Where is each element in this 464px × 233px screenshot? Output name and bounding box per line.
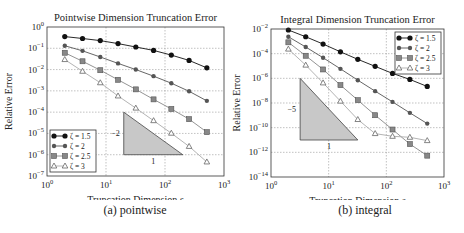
y-tick-label: 10−6 <box>28 148 45 160</box>
y-tick-label: 10−6 <box>252 71 269 83</box>
circle-marker <box>62 133 67 138</box>
circle-marker <box>390 71 395 76</box>
circle-marker <box>52 144 56 148</box>
circle-marker <box>51 133 56 138</box>
triangle-marker <box>169 130 175 135</box>
circle-marker <box>169 52 174 57</box>
square-marker <box>187 117 192 122</box>
circle-marker <box>204 65 209 70</box>
y-axis-label: Relative Error <box>232 74 242 132</box>
circle-marker <box>356 78 360 82</box>
x-tick-label: 101 <box>100 178 112 190</box>
chart-pointwise: Pointwise Dimension Truncation Error−211… <box>0 0 232 200</box>
circle-marker <box>407 77 412 82</box>
y-tick-label: 10−12 <box>249 145 268 157</box>
legend-label: ζ = 2.5 <box>415 54 436 63</box>
triangle-marker <box>97 80 103 85</box>
circle-marker <box>407 35 412 40</box>
y-tick-label: 100 <box>32 20 44 32</box>
square-marker <box>338 83 343 88</box>
circle-marker <box>425 121 429 125</box>
circle-marker <box>63 44 67 48</box>
circle-marker <box>187 89 191 93</box>
circle-marker <box>205 99 209 103</box>
circle-marker <box>408 46 412 50</box>
legend-label: ζ = 1.5 <box>415 34 436 43</box>
circle-marker <box>408 111 412 115</box>
circle-marker <box>115 41 120 46</box>
caption-integral: (b) integral <box>310 203 420 218</box>
circle-marker <box>390 100 394 104</box>
square-marker <box>321 67 326 72</box>
legend-label: ζ = 2 <box>70 142 85 151</box>
y-tick-label: 10−10 <box>249 121 268 133</box>
square-marker <box>425 153 430 158</box>
circle-marker <box>338 49 343 54</box>
square-marker <box>151 97 156 102</box>
circle-marker <box>134 67 138 71</box>
square-marker <box>407 142 412 147</box>
circle-marker <box>286 35 290 39</box>
circle-marker <box>151 48 156 53</box>
square-marker <box>98 68 103 73</box>
run-label: 1 <box>151 157 155 166</box>
legend: ζ = 1.5ζ = 2ζ = 2.5ζ = 3 <box>395 32 441 74</box>
legend-label: ζ = 1.5 <box>70 132 91 141</box>
triangle-marker <box>133 105 139 110</box>
square-marker <box>390 127 395 132</box>
legend: ζ = 1.5ζ = 2ζ = 2.5ζ = 3 <box>50 130 96 172</box>
slope-triangle <box>300 78 358 140</box>
square-marker <box>373 113 378 118</box>
y-tick-label: 10−2 <box>28 63 44 75</box>
chart-integral: Integral Dimension Truncation Error−5110… <box>232 0 464 200</box>
x-tick-label: 100 <box>265 179 277 191</box>
circle-marker <box>304 45 308 49</box>
x-axis-label: Truncation Dimension s <box>87 194 183 200</box>
y-tick-label: 10−2 <box>252 22 268 34</box>
slope-label: −2 <box>111 129 120 138</box>
square-marker <box>355 98 360 103</box>
triangle-marker <box>151 118 157 123</box>
circle-marker <box>186 58 191 63</box>
y-tick-label: 10−1 <box>28 41 44 53</box>
square-marker <box>52 154 57 159</box>
circle-marker <box>80 49 84 53</box>
square-marker <box>116 77 121 82</box>
circle-marker <box>169 81 173 85</box>
y-tick-label: 10−4 <box>28 105 45 117</box>
circle-marker <box>396 35 401 40</box>
triangle-marker <box>372 131 378 136</box>
square-marker <box>397 56 402 61</box>
series-line <box>65 53 207 132</box>
circle-marker <box>62 34 67 39</box>
square-marker <box>204 130 209 135</box>
y-tick-label: 10−5 <box>28 126 44 138</box>
square-marker <box>62 50 67 55</box>
circle-marker <box>151 74 155 78</box>
square-marker <box>408 56 413 61</box>
circle-marker <box>321 56 325 60</box>
legend-label: ζ = 2 <box>415 44 430 53</box>
figure: Pointwise Dimension Truncation Error−211… <box>0 0 464 233</box>
y-tick-label: 10−8 <box>252 96 268 108</box>
circle-marker <box>80 36 85 41</box>
series <box>62 34 209 70</box>
chart-title: Pointwise Dimension Truncation Error <box>54 12 218 23</box>
chart-title: Integral Dimension Truncation Error <box>280 14 435 25</box>
triangle-marker <box>186 143 192 148</box>
circle-marker <box>397 46 401 50</box>
circle-marker <box>63 144 67 148</box>
circle-marker <box>320 41 325 46</box>
y-axis-label: Relative Error <box>3 72 14 130</box>
circle-marker <box>98 38 103 43</box>
x-tick-label: 103 <box>438 179 450 191</box>
circle-marker <box>303 34 308 39</box>
x-tick-label: 100 <box>41 178 53 190</box>
circle-marker <box>133 44 138 49</box>
circle-marker <box>286 27 291 32</box>
square-marker <box>133 87 138 92</box>
x-tick-label: 102 <box>159 178 171 190</box>
square-marker <box>303 53 308 58</box>
y-tick-label: 10−3 <box>28 84 44 96</box>
legend-label: ζ = 2.5 <box>70 152 91 161</box>
